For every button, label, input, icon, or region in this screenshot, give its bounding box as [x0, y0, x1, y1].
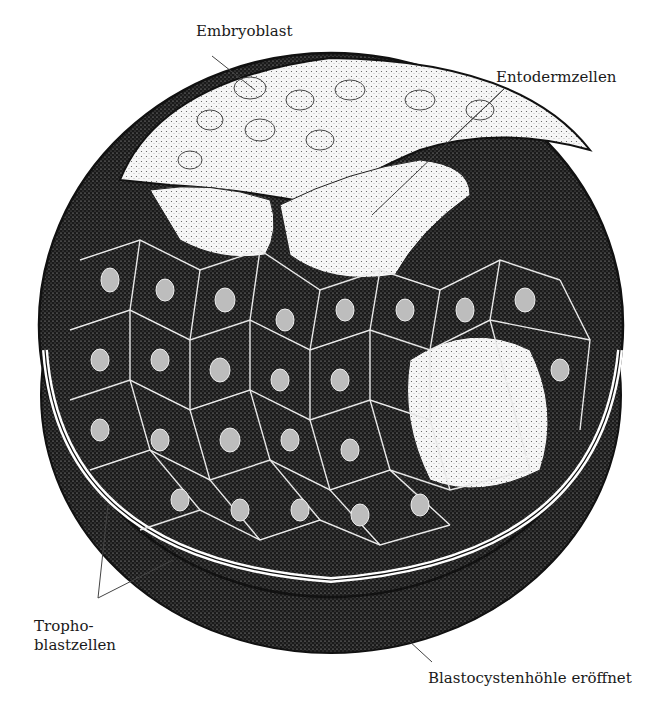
label-entodermzellen: Entodermzellen — [496, 68, 616, 86]
blastocyst-illustration — [0, 0, 662, 701]
label-trophoblastzellen-line2: blastzellen — [34, 636, 116, 654]
leader-blastocystenhoehle — [408, 640, 432, 662]
label-embryoblast: Embryoblast — [196, 22, 293, 40]
entoderm-patch-3 — [408, 337, 549, 488]
label-trophoblastzellen-line1: Tropho- — [34, 617, 94, 635]
label-blastocystenhoehle: Blastocystenhöhle eröffnet — [428, 669, 632, 687]
